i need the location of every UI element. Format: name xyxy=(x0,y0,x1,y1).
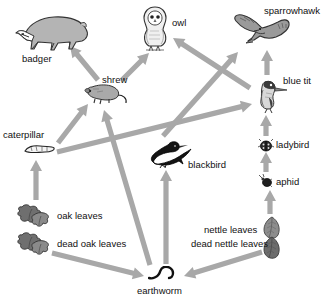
arrow-dead-oak-leaves-to-earthworm xyxy=(51,250,144,279)
oak-leaves-label: oak leaves xyxy=(57,211,102,221)
shrew-label: shrew xyxy=(102,75,127,85)
aphid-illustration xyxy=(259,174,273,188)
caterpillar-label: caterpillar xyxy=(3,130,44,140)
earthworm-label: earthworm xyxy=(137,286,182,296)
blue-tit-label: blue tit xyxy=(283,76,311,86)
oak-leaves-illustration xyxy=(14,203,52,229)
earthworm-illustration xyxy=(148,266,178,282)
caterpillar-illustration xyxy=(22,142,56,156)
arrow-ladybird-to-blue-tit xyxy=(260,115,272,136)
arrow-nettle-leaves-to-aphid xyxy=(264,190,276,214)
arrow-earthworm-to-blackbird xyxy=(160,170,172,264)
sparrowhawk-label: sparrowhawk xyxy=(264,6,320,16)
ladybird-illustration xyxy=(258,138,274,152)
owl-illustration xyxy=(137,4,173,52)
blackbird-illustration xyxy=(148,138,192,168)
arrow-caterpillar-to-shrew xyxy=(56,104,88,145)
blackbird-label: blackbird xyxy=(188,160,226,170)
arrow-blue-tit-to-sparrowhawk xyxy=(261,50,273,75)
dead-nettle-leaves-label: dead nettle leaves xyxy=(191,239,268,249)
dead-oak-leaves-illustration xyxy=(14,231,52,257)
arrow-aphid-to-ladybird xyxy=(260,152,272,172)
badger-illustration xyxy=(14,8,90,52)
aphid-label: aphid xyxy=(276,177,299,187)
food-web-diagram: badger owl sparrowhawk xyxy=(0,0,329,305)
badger-label: badger xyxy=(22,54,52,64)
sparrowhawk-illustration xyxy=(232,12,292,50)
arrow-oak-leaves-to-caterpillar xyxy=(30,160,42,200)
ladybird-label: ladybird xyxy=(276,140,309,150)
owl-label: owl xyxy=(172,18,186,28)
arrow-dead-nettle-leaves-to-earthworm xyxy=(184,250,263,279)
nettle-leaves-label: nettle leaves xyxy=(204,225,257,235)
dead-oak-leaves-label: dead oak leaves xyxy=(57,239,126,249)
